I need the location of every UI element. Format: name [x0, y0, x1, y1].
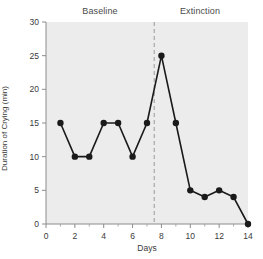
- x-axis-title: Days: [137, 243, 156, 253]
- x-tick-label: 0: [44, 231, 49, 241]
- data-point: [158, 52, 164, 58]
- x-tick-label: 8: [159, 231, 164, 241]
- y-tick-label: 20: [30, 84, 39, 94]
- x-tick-label: 6: [130, 231, 135, 241]
- y-tick-label: 0: [34, 219, 39, 229]
- data-point: [216, 187, 222, 193]
- data-point: [129, 153, 135, 159]
- x-tick-label: 2: [72, 231, 77, 241]
- data-point: [57, 120, 63, 126]
- phase-label-extinction: Extinction: [180, 6, 220, 16]
- data-point: [202, 194, 208, 200]
- y-tick-label: 15: [30, 118, 39, 128]
- data-point: [230, 194, 236, 200]
- x-tick-label: 12: [214, 231, 223, 241]
- x-tick-label: 4: [101, 231, 106, 241]
- plot-canvas: [0, 0, 263, 259]
- y-tick-label: 25: [30, 51, 39, 61]
- data-point: [101, 120, 107, 126]
- crying-duration-line-chart: Baseline Extinction Duration of Crying (…: [0, 0, 263, 259]
- data-point: [173, 120, 179, 126]
- phase-label-baseline: Baseline: [82, 6, 117, 16]
- data-point: [187, 187, 193, 193]
- x-tick-label: 10: [186, 231, 195, 241]
- data-point: [115, 120, 121, 126]
- data-point: [86, 153, 92, 159]
- x-tick-label: 14: [243, 231, 252, 241]
- y-axis-title: Duration of Crying (min): [0, 86, 9, 171]
- data-point: [144, 120, 150, 126]
- y-tick-label: 30: [30, 17, 39, 27]
- y-tick-label: 10: [30, 152, 39, 162]
- data-point: [245, 221, 251, 227]
- y-tick-label: 5: [34, 185, 39, 195]
- data-point: [72, 153, 78, 159]
